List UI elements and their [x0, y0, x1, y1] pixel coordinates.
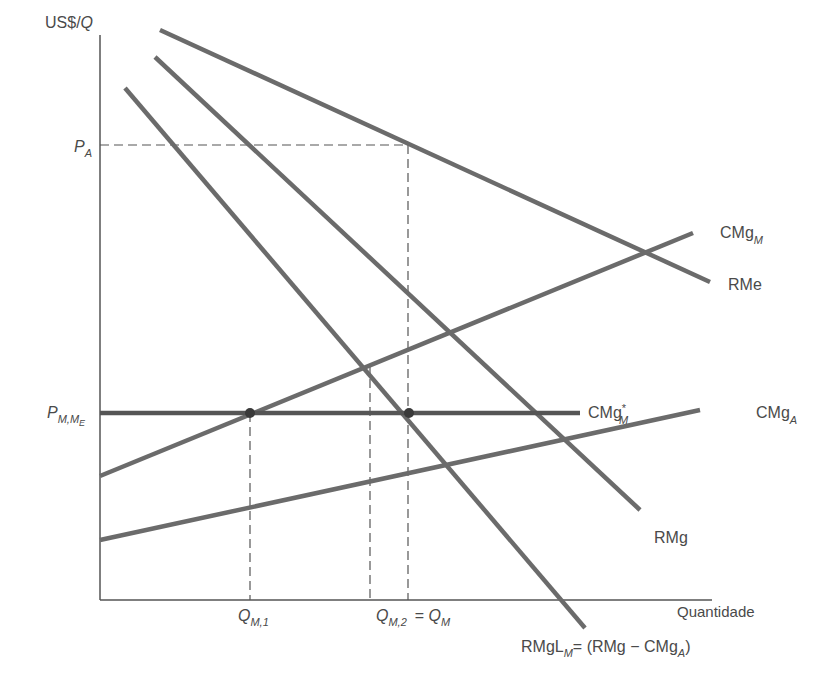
point-qm2: [404, 408, 414, 418]
cmga-label: CMgA: [756, 404, 797, 426]
point-qm1: [245, 408, 255, 418]
pa-tick-label: PA: [74, 138, 92, 159]
chart: US$/Q PA PM,ME CMgM RMe CMg*M CMgA RMg Q…: [0, 0, 834, 699]
cmgstar-label: CMg*M: [588, 402, 629, 426]
cmga-line: [100, 410, 700, 540]
y-axis-label: US$/Q: [45, 14, 93, 31]
x-axis-label: Quantidade: [677, 603, 755, 620]
rmgl-line: [125, 88, 585, 628]
cmgm-line: [100, 233, 693, 476]
qm2-tick-label: QM,2= QM: [376, 607, 451, 628]
rme-line: [160, 30, 710, 282]
cmgm-label: CMgM: [720, 224, 764, 246]
qm1-tick-label: QM,1: [238, 607, 269, 628]
rmg-label: RMg: [654, 529, 688, 546]
rme-label: RMe: [728, 276, 762, 293]
pm-tick-label: PM,ME: [47, 404, 86, 428]
rmgl-label: RMgLM= (RMg − CMgA): [521, 638, 690, 659]
